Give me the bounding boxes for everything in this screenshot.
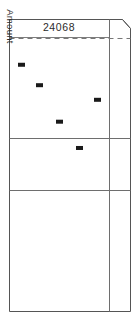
data-point-marker — [56, 120, 63, 124]
panel-figure: 24068 Amount — [0, 0, 140, 330]
data-point-marker — [36, 83, 43, 87]
panel-title: 24068 — [9, 22, 109, 33]
data-point-marker — [94, 98, 101, 102]
data-point-marker — [18, 63, 25, 67]
y-axis-label-text: Amount — [5, 9, 16, 44]
data-point-marker — [76, 146, 83, 150]
chart-canvas — [0, 0, 140, 330]
panel-border — [10, 20, 131, 312]
